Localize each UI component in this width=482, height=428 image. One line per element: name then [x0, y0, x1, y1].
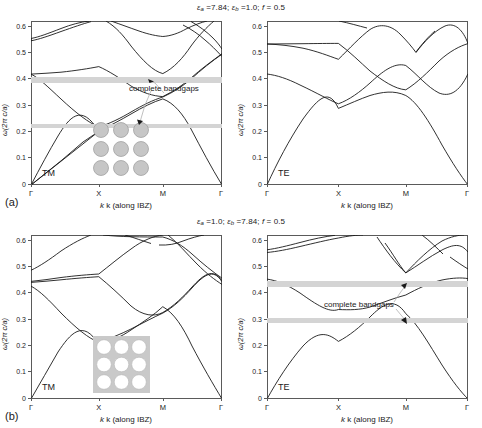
x-axis-title: k k (along IBZ)	[341, 415, 393, 424]
ytick-label: 0.6	[4, 237, 26, 244]
bandgap-band-upper	[31, 77, 222, 83]
x-axis-title-text: k (along IBZ)	[106, 415, 152, 424]
ytick-label: 0.4	[240, 289, 262, 296]
panel-b: εa =1.0; εb =7.84; f = 0.5	[0, 214, 482, 428]
ytick	[264, 345, 267, 346]
x-axis-title-text: k (along IBZ)	[347, 415, 393, 424]
ytick	[264, 240, 267, 241]
xtick-label: Γ	[265, 403, 269, 412]
inset-holes-in-dielectric	[93, 336, 150, 393]
panel-a: εa =7.84; εb =1.0; f = 0.5	[0, 0, 482, 214]
xtick-label: Γ	[219, 189, 223, 198]
xtick-label: M	[403, 189, 409, 198]
xtick-label: Γ	[29, 189, 33, 198]
ytick	[28, 266, 31, 267]
panel-a-te-plot: 0 0.1 0.2 0.3 0.4 0.5 0.6 ω(2π c/a) Γ X …	[267, 21, 468, 185]
ytick	[28, 319, 31, 320]
ytick	[28, 131, 31, 132]
mode-label-te: TE	[278, 168, 290, 178]
panel-a-eps-a: 7.84	[211, 3, 227, 12]
panel-b-eps-b: 7.84	[241, 217, 257, 226]
ytick-label: 0.4	[240, 75, 262, 82]
xtick-label: Γ	[29, 403, 33, 412]
x-axis-title-text: k (along IBZ)	[347, 201, 393, 210]
ytick-label: 0.1	[240, 368, 262, 375]
ytick	[28, 26, 31, 27]
y-axis-title: ω(2π c/a)	[0, 104, 9, 136]
xtick-label: X	[96, 189, 101, 198]
xtick	[221, 184, 222, 187]
xtick	[338, 398, 339, 401]
y-axis-title: ω(2π c/a)	[236, 104, 245, 136]
xtick	[406, 184, 407, 187]
ytick	[28, 345, 31, 346]
xtick	[467, 398, 468, 401]
ytick-label: 0.6	[240, 237, 262, 244]
ytick-label: 0	[240, 395, 262, 402]
ytick-label: 0.5	[240, 49, 262, 56]
ytick-label: 0	[4, 395, 26, 402]
ytick-label: 0.1	[240, 154, 262, 161]
panel-b-te-plot: 0 0.1 0.2 0.3 0.4 0.5 0.6 ω(2π c/a) Γ X …	[267, 235, 468, 399]
x-axis-title: k k (along IBZ)	[100, 201, 152, 210]
ytick-label: 0.1	[4, 368, 26, 375]
panel-a-te-canvas	[267, 21, 468, 185]
xtick-label: X	[336, 403, 341, 412]
ytick	[28, 105, 31, 106]
panel-b-tm-plot: 0 0.1 0.2 0.3 0.4 0.5 0.6 ω(2π c/a) Γ X …	[31, 235, 222, 399]
xtick-label: Γ	[219, 403, 223, 412]
ytick	[264, 292, 267, 293]
y-axis-title: ω(2π c/a)	[0, 318, 9, 350]
x-axis-title: k k (along IBZ)	[341, 201, 393, 210]
figure-root: εa =7.84; εb =1.0; f = 0.5	[0, 0, 482, 428]
xtick	[406, 398, 407, 401]
ytick	[264, 371, 267, 372]
ytick	[264, 78, 267, 79]
xtick	[31, 184, 32, 187]
xtick-label: Γ	[465, 189, 469, 198]
ytick-label: 0.4	[4, 75, 26, 82]
ytick-label: 0	[240, 181, 262, 188]
ytick	[264, 52, 267, 53]
ytick-label: 0.4	[4, 289, 26, 296]
inset-rods-in-air	[90, 120, 152, 178]
xtick	[221, 398, 222, 401]
ytick	[264, 319, 267, 320]
x-axis-title-text: k (along IBZ)	[106, 201, 152, 210]
ytick	[28, 78, 31, 79]
xtick-label: Γ	[265, 189, 269, 198]
panel-a-tm-plot: 0 0.1 0.2 0.3 0.4 0.5 0.6 ω(2π c/a) Γ X …	[31, 21, 222, 185]
xtick-label: M	[160, 403, 166, 412]
ytick	[28, 52, 31, 53]
bandgap-band-upper	[267, 281, 468, 287]
panel-a-eps-b: 1.0	[246, 3, 257, 12]
mode-label-tm: TM	[42, 168, 55, 178]
panel-b-te-canvas	[267, 235, 468, 399]
xtick	[163, 184, 164, 187]
panel-b-eps-a: 1.0	[211, 217, 222, 226]
ytick-label: 0.1	[4, 154, 26, 161]
ytick	[264, 26, 267, 27]
bandgap-band-lower	[267, 318, 468, 323]
ytick	[28, 371, 31, 372]
xtick	[31, 398, 32, 401]
panel-b-f: 0.5	[274, 217, 285, 226]
ytick	[28, 240, 31, 241]
panel-a-f: 0.5	[274, 3, 285, 12]
bandgap-annotation: complete bandgaps	[324, 300, 394, 309]
ytick	[264, 157, 267, 158]
ytick	[28, 157, 31, 158]
panel-a-title: εa =7.84; εb =1.0; f = 0.5	[0, 3, 482, 12]
xtick	[267, 184, 268, 187]
panel-b-title: εa =1.0; εb =7.84; f = 0.5	[0, 217, 482, 226]
ytick-label: 0.6	[240, 23, 262, 30]
xtick	[99, 184, 100, 187]
xtick-label: M	[160, 189, 166, 198]
ytick-label: 0	[4, 181, 26, 188]
ytick	[264, 266, 267, 267]
xtick	[467, 184, 468, 187]
ytick	[264, 131, 267, 132]
ytick-label: 0.6	[4, 23, 26, 30]
xtick	[99, 398, 100, 401]
x-axis-title: k k (along IBZ)	[100, 415, 152, 424]
